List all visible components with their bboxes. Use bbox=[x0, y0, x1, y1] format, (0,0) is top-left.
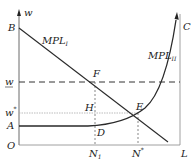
point-c-label: C bbox=[183, 21, 191, 32]
nstar-label: N* bbox=[131, 146, 144, 159]
point-e-label: E bbox=[135, 101, 144, 112]
point-h-label: H bbox=[84, 102, 94, 113]
l-axis-label: L bbox=[180, 148, 188, 159]
mpl-diagram: w B C MPLI MPLII w w* A O F H E D N1 N* … bbox=[0, 0, 196, 159]
point-f-label: F bbox=[92, 68, 101, 79]
point-a-label: A bbox=[6, 120, 14, 131]
origin-label: O bbox=[7, 140, 15, 151]
mpl2-arrow-icon bbox=[175, 12, 179, 20]
n1-label: N1 bbox=[88, 148, 102, 159]
mpl1-label: MPLI bbox=[41, 35, 69, 47]
w-star-label: w* bbox=[5, 105, 17, 118]
w-bar-label: w bbox=[5, 76, 14, 87]
y-axis-label: w bbox=[24, 7, 33, 18]
mpl2-label: MPLII bbox=[147, 50, 177, 62]
y-axis-arrow-icon bbox=[17, 9, 21, 16]
point-d-label: D bbox=[96, 127, 105, 138]
point-b-label: B bbox=[7, 22, 15, 33]
